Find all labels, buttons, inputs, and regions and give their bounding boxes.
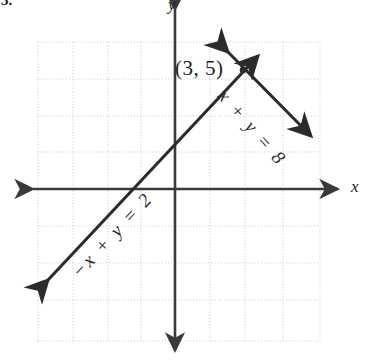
x-axis-label: x [351,178,359,195]
intersection-point [240,67,247,74]
graph-canvas [0,0,380,362]
intersection-point-label: (3, 5) [175,58,224,79]
problem-number: 3. [1,0,12,8]
y-axis-label: y [168,0,176,13]
grid-lines [38,42,320,341]
coordinate-plane-figure: 3. y x (3, 5) x + y = 8 −x + y = 2 [0,0,380,362]
